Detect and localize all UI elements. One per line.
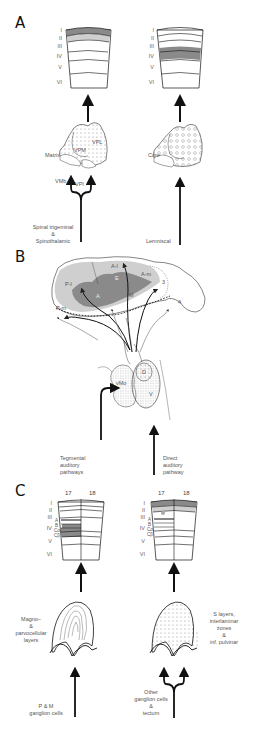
- label-spinal-input: Spinal trigeminal & Spinothalamic: [30, 224, 76, 245]
- label-a-m: A-m: [141, 271, 151, 278]
- label-a: A: [96, 293, 100, 300]
- label-s-layers: S layers, interlaminar zones & inf. pulv…: [203, 611, 245, 646]
- panel-letter-b: B: [15, 248, 25, 266]
- label-3: 3: [162, 279, 165, 286]
- panel-c-right-cortex: [151, 499, 197, 560]
- area-18-label: 18: [89, 490, 96, 496]
- layer-label: I: [38, 500, 52, 506]
- panel-b-medial-geniculate: [98, 342, 170, 420]
- layer-label: II: [140, 35, 154, 41]
- layer-label: I: [140, 27, 154, 33]
- label-vpm: VPM: [74, 147, 86, 154]
- label-vmo: vMo: [116, 380, 126, 387]
- area-17-label: 17: [65, 490, 72, 496]
- panel-b-tegmental-arrow: [101, 388, 115, 440]
- layer-label: VI: [38, 551, 52, 557]
- label-vpl: VPL: [92, 139, 102, 146]
- label-p-m-ganglion: P & M ganglion cells: [25, 703, 67, 717]
- panel-c-lgn-left: [50, 602, 97, 656]
- layer-label: IV: [38, 525, 52, 531]
- label-4: 4: [178, 299, 181, 306]
- label-vmb: VMb: [55, 178, 66, 185]
- layer-label: II: [38, 507, 52, 513]
- layer-label: VI: [48, 79, 62, 85]
- layer-label: III: [38, 514, 52, 520]
- layer-label: II: [48, 35, 62, 41]
- area-18-label: 18: [183, 490, 190, 496]
- panel-letter-a: A: [15, 14, 25, 32]
- label-d: D: [142, 369, 146, 376]
- layer-label: I: [131, 500, 145, 506]
- label-magno-parvo: Magno– & parvocellular layers: [13, 616, 49, 644]
- label-direct: Direct auditory pathway: [163, 455, 184, 476]
- layer-label: I: [48, 27, 62, 33]
- area-17-label: 17: [158, 490, 165, 496]
- layer-label: IV: [140, 53, 154, 59]
- layer-label: V: [131, 538, 145, 544]
- label-m: M: [129, 292, 134, 299]
- panel-letter-c: C: [15, 482, 25, 500]
- layer-label: IV: [131, 525, 145, 531]
- label-other-ganglion: Other ganglion cells & tectum: [130, 689, 172, 717]
- panel-a-left-cortex: [66, 28, 111, 89]
- layer-label: VI: [140, 79, 154, 85]
- label-p-m: P-m: [56, 305, 66, 312]
- layer-label: III: [131, 514, 145, 520]
- layer-label: III: [48, 43, 62, 49]
- layer-label: VI: [131, 551, 145, 557]
- label-core: Core: [148, 152, 160, 159]
- layer-label: III: [140, 43, 154, 49]
- panel-c-lgn-right: [150, 602, 200, 656]
- panel-c-left-cortex: [58, 499, 104, 560]
- layer-label: IV: [48, 53, 62, 59]
- label-a-l: A-l: [111, 263, 118, 270]
- label-p-l: P-l: [65, 281, 72, 288]
- label-lemniscal: Lemniscal: [146, 238, 171, 245]
- layer-label: V: [48, 64, 62, 70]
- label-vpi: VPI: [75, 181, 84, 188]
- layer-label: V: [38, 538, 52, 544]
- label-matrix: Matrix: [45, 152, 60, 159]
- layer-label: II: [131, 507, 145, 513]
- label-e: E: [115, 275, 119, 282]
- layer-label: V: [140, 64, 154, 70]
- panel-a-thalamus-core: [154, 124, 203, 167]
- label-v: V: [149, 391, 153, 398]
- panel-a-right-cortex: [157, 28, 203, 89]
- label-tegmental: Tegmental auditory pathways: [60, 455, 85, 476]
